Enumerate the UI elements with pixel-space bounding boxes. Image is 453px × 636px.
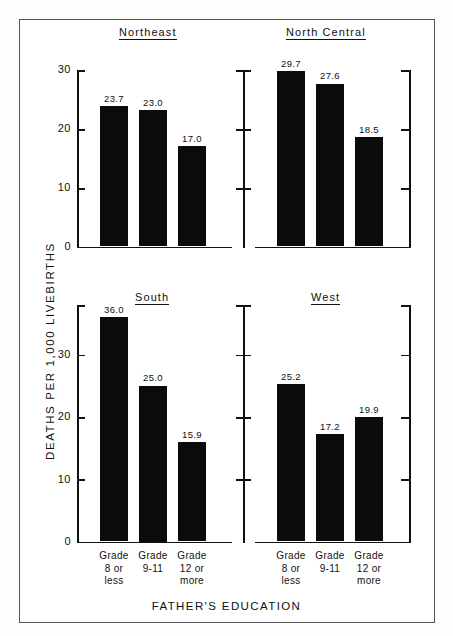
ytick-30-bottom-right [401,355,410,357]
panel-west: West 25.2 17.2 19.9 [0,0,453,636]
bar-west-grade12 [355,417,383,541]
xcat-line3: more [162,575,222,588]
xcat-south-grade12: Grade 12 or more [162,550,222,588]
xcat-line3: more [339,575,399,588]
bar-label-west-grade12: 19.9 [339,404,399,415]
xcat-line3: less [84,575,144,588]
x-axis-title: FATHER'S EDUCATION [0,600,453,612]
xcat-line3: less [261,575,321,588]
xcat-line1: Grade [162,550,222,563]
bar-label-west-grade911: 17.2 [300,421,360,432]
bar-west-grade911 [316,434,344,541]
axis-baseline-bottom-right [255,542,411,544]
figure-canvas: DEATHS PER 1,000 LIVEBIRTHS 30 20 10 0 N… [0,0,453,636]
ytick-20-bottom-right [401,417,410,419]
bar-label-west-grade8: 25.2 [261,371,321,382]
axis-right-spine-bottom-right [409,305,411,543]
xcat-west-grade12: Grade 12 or more [339,550,399,588]
panel-title-west: West [311,291,340,305]
xcat-line2: 12 or [339,563,399,576]
xcat-line2: 12 or [162,563,222,576]
bar-west-grade8 [277,384,305,541]
ytick-10-bottom-right [401,479,410,481]
xcat-line1: Grade [339,550,399,563]
axis-cap-bottom-right [401,305,410,307]
